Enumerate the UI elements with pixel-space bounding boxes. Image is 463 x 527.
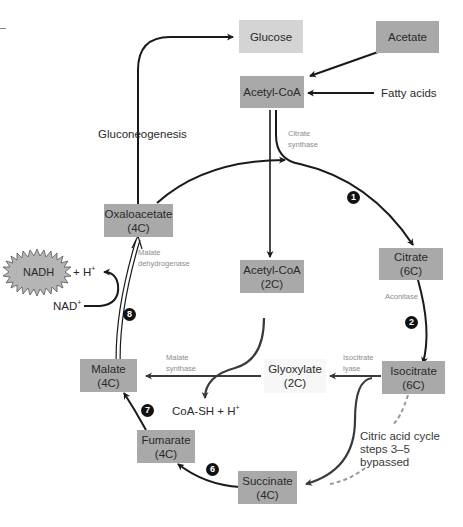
- enzyme-citrate-synthase: Citrate synthase: [288, 128, 318, 150]
- node-label: Glucose: [250, 30, 292, 44]
- node-label: Succinate: [242, 474, 293, 488]
- node-carbons: (2C): [284, 376, 306, 390]
- node-label: Isocitrate: [390, 364, 437, 378]
- step-badge-6: 6: [206, 463, 219, 476]
- node-carbons: (4C): [127, 221, 149, 235]
- node-label: Citrate: [394, 250, 428, 264]
- node-label: Acetyl-CoA: [243, 263, 301, 277]
- step-badge-8: 8: [123, 308, 136, 321]
- node-carbons: (6C): [402, 378, 424, 392]
- enzyme-malate-dehydrogenase: Malate dehydrogenase: [138, 247, 190, 269]
- arrow-citrate-to-isocitrate: [418, 280, 427, 363]
- node-carbons: (4C): [97, 376, 119, 390]
- enzyme-malate-synthase: Malate synthase: [166, 352, 196, 374]
- node-glyoxylate: Glyoxylate (2C): [264, 359, 326, 393]
- node-succinate: Succinate (4C): [238, 471, 297, 504]
- node-isocitrate: Isocitrate (6C): [382, 361, 445, 394]
- node-label: Oxaloacetate: [105, 207, 173, 221]
- label-nadh: NADH: [23, 265, 54, 279]
- arrow-acetylcoa-to-coash: [205, 318, 264, 398]
- enzyme-aconitase: Aconitase: [385, 291, 418, 302]
- node-carbons: (6C): [400, 264, 422, 278]
- node-acetyl-coa-mid: Acetyl-CoA (2C): [240, 260, 304, 293]
- arrow-gluconeogenesis: [138, 37, 233, 204]
- node-acetyl-coa-top: Acetyl-CoA: [240, 76, 304, 108]
- label-plus-h: + H+: [73, 265, 95, 279]
- node-carbons: (4C): [155, 447, 177, 461]
- node-label: Acetyl-CoA: [243, 85, 301, 99]
- node-label: Malate: [91, 362, 126, 376]
- step-badge-2: 2: [405, 316, 418, 329]
- node-acetate: Acetate: [376, 21, 439, 53]
- arrow-oxaloacetate-to-citrate-synthase: [157, 160, 285, 203]
- label-fatty-acids: Fatty acids: [381, 86, 437, 100]
- step-badge-7: 7: [141, 404, 154, 417]
- node-glucose: Glucose: [239, 20, 303, 53]
- enzyme-isocitrate-lyase: Isocitrate lyase: [343, 352, 373, 374]
- node-malate: Malate (4C): [80, 359, 137, 392]
- node-label: Glyoxylate: [268, 362, 322, 376]
- node-oxaloacetate: Oxaloacetate (4C): [104, 204, 173, 237]
- label-gluconeogenesis: Gluconeogenesis: [98, 127, 187, 141]
- label-coa-sh: CoA-SH + H+: [172, 404, 240, 418]
- label-bypass: Citric acid cycle steps 3–5 bypassed: [360, 430, 440, 469]
- node-carbons: (4C): [256, 488, 278, 502]
- node-citrate: Citrate (6C): [379, 248, 443, 280]
- label-nad: NAD+: [53, 299, 81, 313]
- arrow-acetate-to-acetylcoa: [310, 52, 378, 76]
- node-label: Fumarate: [141, 433, 190, 447]
- node-label: Acetate: [388, 30, 427, 44]
- node-carbons: (2C): [261, 277, 283, 291]
- node-fumarate: Fumarate (4C): [137, 430, 195, 463]
- step-badge-1: 1: [347, 191, 360, 204]
